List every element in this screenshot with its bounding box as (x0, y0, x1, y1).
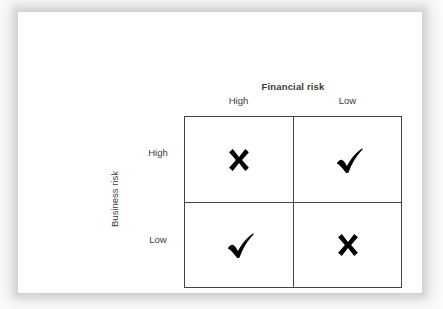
financial-risk-axis-title: Financial risk (184, 81, 402, 92)
diagram-card: Financial risk High Low Business risk Hi… (39, 31, 401, 270)
business-risk-axis-title: Business risk (109, 149, 123, 249)
row-header-high: High (137, 147, 179, 158)
matrix-cell-low-low (293, 202, 401, 287)
check-icon (335, 147, 365, 175)
cross-icon (335, 232, 361, 258)
matrix-cell-low-high (185, 202, 293, 287)
check-icon (226, 232, 256, 260)
matrix-cell-high-high (185, 117, 293, 202)
row-header-low: Low (137, 234, 179, 245)
column-header-low: Low (293, 95, 402, 106)
risk-matrix (184, 116, 402, 288)
screenshot-root: Financial risk High Low Business risk Hi… (0, 0, 443, 309)
column-header-high: High (184, 95, 293, 106)
cross-icon (226, 147, 252, 173)
matrix-cell-high-low (293, 117, 401, 202)
